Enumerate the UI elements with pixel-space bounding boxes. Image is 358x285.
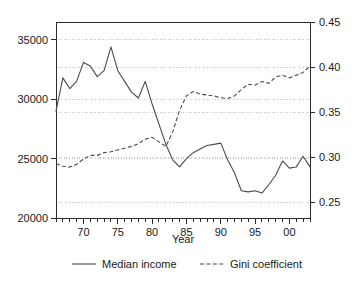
legend-label-median-income: Median income bbox=[102, 258, 177, 270]
legend-label-gini-coefficient: Gini coefficient bbox=[230, 258, 302, 270]
y-right-tick-label: 0.35 bbox=[319, 106, 340, 118]
x-axis-ticks bbox=[56, 218, 310, 224]
x-tick-label: 70 bbox=[77, 226, 89, 238]
dual-axis-line-chart: 70758085909500 20000250003000035000 0.25… bbox=[0, 0, 358, 285]
y-left-tick-label: 20000 bbox=[17, 212, 48, 224]
x-tick-label: 95 bbox=[249, 226, 261, 238]
plot-frame bbox=[56, 22, 310, 218]
right-axis-ticks bbox=[310, 22, 315, 202]
chart-figure: 70758085909500 20000250003000035000 0.25… bbox=[0, 0, 358, 285]
y-left-tick-label: 25000 bbox=[17, 153, 48, 165]
x-tick-label: 80 bbox=[146, 226, 158, 238]
x-tick-label: 90 bbox=[215, 226, 227, 238]
y-right-tick-label: 0.25 bbox=[319, 196, 340, 208]
series-line-median-income bbox=[56, 47, 310, 193]
axis-frame bbox=[56, 22, 310, 218]
series-group bbox=[56, 47, 310, 193]
x-tick-label: 00 bbox=[283, 226, 295, 238]
x-tick-label: 75 bbox=[112, 226, 124, 238]
left-axis-tick-labels: 20000250003000035000 bbox=[17, 34, 48, 224]
y-left-tick-label: 35000 bbox=[17, 34, 48, 46]
y-left-tick-label: 30000 bbox=[17, 93, 48, 105]
right-axis-tick-labels: 0.250.300.350.400.45 bbox=[319, 16, 340, 208]
series-line-gini-coefficient bbox=[56, 66, 310, 167]
y-right-tick-label: 0.45 bbox=[319, 16, 340, 28]
x-axis-title: Year bbox=[172, 233, 195, 245]
y-right-tick-label: 0.40 bbox=[319, 61, 340, 73]
left-axis-ticks bbox=[51, 40, 56, 218]
gridlines bbox=[56, 40, 310, 202]
chart-legend: Median incomeGini coefficient bbox=[72, 258, 302, 270]
y-right-tick-label: 0.30 bbox=[319, 151, 340, 163]
